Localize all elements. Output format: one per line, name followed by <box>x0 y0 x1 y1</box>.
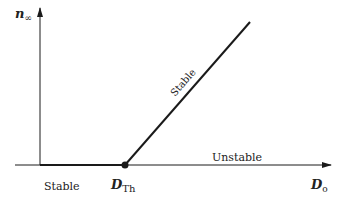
bifurcation-diagram: n∞ Stable DTh Unstable Do Stable <box>0 0 337 201</box>
y-axis-label: n∞ <box>15 6 32 23</box>
stable-rising-branch <box>125 22 250 165</box>
unstable-label: Unstable <box>212 151 262 164</box>
threshold-point <box>122 162 129 169</box>
x-axis-label: Do <box>310 177 328 194</box>
stable-low-label: Stable <box>44 180 80 193</box>
stable-branch-label: Stable <box>168 67 198 99</box>
threshold-label: DTh <box>110 177 136 194</box>
